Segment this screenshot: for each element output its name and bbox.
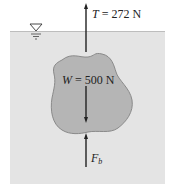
weight-label: W = 500 N <box>62 73 114 88</box>
diagram-canvas <box>0 0 174 194</box>
weight-symbol: W <box>62 73 72 87</box>
water-level-icon <box>30 24 42 39</box>
tension-arrow <box>84 3 88 52</box>
tension-label: T = 272 N <box>92 7 141 22</box>
weight-value: = 500 N <box>72 73 114 87</box>
buoyancy-arrow <box>84 133 88 167</box>
buoyancy-subscript: b <box>98 157 102 166</box>
buoyancy-label: Fb <box>91 151 102 166</box>
tension-symbol: T <box>92 7 99 21</box>
submerged-body <box>51 53 132 133</box>
tension-value: = 272 N <box>99 7 141 21</box>
